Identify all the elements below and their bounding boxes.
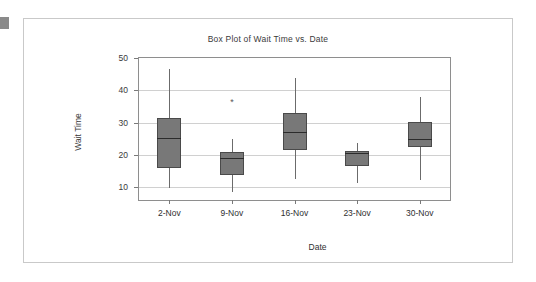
x-tick-label-2-nov: 2-Nov	[139, 208, 199, 218]
x-tick-label-9-nov: 9-Nov	[202, 208, 262, 218]
whisker-lower	[169, 168, 170, 188]
whisker-lower	[232, 175, 233, 191]
x-tick-label-30-nov: 30-Nov	[390, 208, 450, 218]
x-tick-mark-30-nov	[420, 200, 421, 204]
x-tick-mark-2-nov	[169, 200, 170, 204]
whisker-lower	[357, 166, 358, 183]
x-axis-title: Date	[161, 242, 474, 252]
y-tick-label-10: 10	[102, 182, 128, 192]
y-tick-label-text: 10	[102, 182, 128, 192]
x-tick-label-23-nov: 23-Nov	[327, 208, 387, 218]
median-line	[408, 139, 432, 140]
chart-figure-frame: Box Plot of Wait Time vs. Date Wait Time…	[23, 18, 513, 263]
whisker-upper	[420, 97, 421, 122]
box-rect[interactable]	[408, 122, 432, 148]
box-plot-group-30-nov[interactable]	[24, 19, 512, 162]
x-tick-mark-23-nov	[357, 200, 358, 204]
x-tick-mark-16-nov	[295, 200, 296, 204]
left-edge-marker	[0, 17, 9, 29]
x-tick-label-16-nov: 16-Nov	[265, 208, 325, 218]
x-tick-mark-9-nov	[232, 200, 233, 204]
whisker-lower	[420, 147, 421, 179]
